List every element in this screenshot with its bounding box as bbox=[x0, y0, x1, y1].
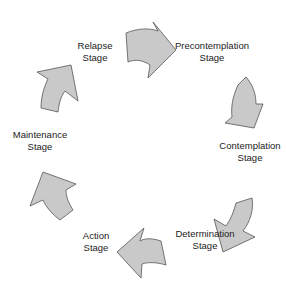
stage-label-action: Action Stage bbox=[83, 230, 109, 254]
stage-suffix: Stage bbox=[175, 240, 234, 252]
arrow-right-icon bbox=[126, 22, 176, 78]
arrow-left-icon bbox=[117, 228, 166, 278]
stage-name: Contemplation bbox=[219, 140, 280, 152]
stage-name: Relapse bbox=[78, 40, 113, 52]
stage-name: Determination bbox=[175, 228, 234, 240]
stage-suffix: Stage bbox=[175, 52, 249, 64]
stage-label-determination: Determination Stage bbox=[175, 228, 234, 252]
stage-suffix: Stage bbox=[78, 52, 113, 64]
arrow-down-right-icon bbox=[225, 77, 263, 128]
stage-label-maintenance: Maintenance Stage bbox=[13, 129, 67, 153]
stage-name: Maintenance bbox=[13, 129, 67, 141]
stage-label-contemplation: Contemplation Stage bbox=[219, 140, 280, 164]
stage-name: Action bbox=[83, 230, 109, 242]
stage-name: Precontemplation bbox=[175, 40, 249, 52]
stages-of-change-diagram: Precontemplation Stage Contemplation Sta… bbox=[0, 0, 286, 286]
stage-suffix: Stage bbox=[83, 242, 109, 254]
arrow-up-icon bbox=[30, 172, 76, 220]
stage-label-relapse: Relapse Stage bbox=[78, 40, 113, 64]
arrow-up-right-icon bbox=[37, 65, 78, 112]
stage-suffix: Stage bbox=[219, 152, 280, 164]
stage-label-precontemplation: Precontemplation Stage bbox=[175, 40, 249, 64]
stage-suffix: Stage bbox=[13, 141, 67, 153]
